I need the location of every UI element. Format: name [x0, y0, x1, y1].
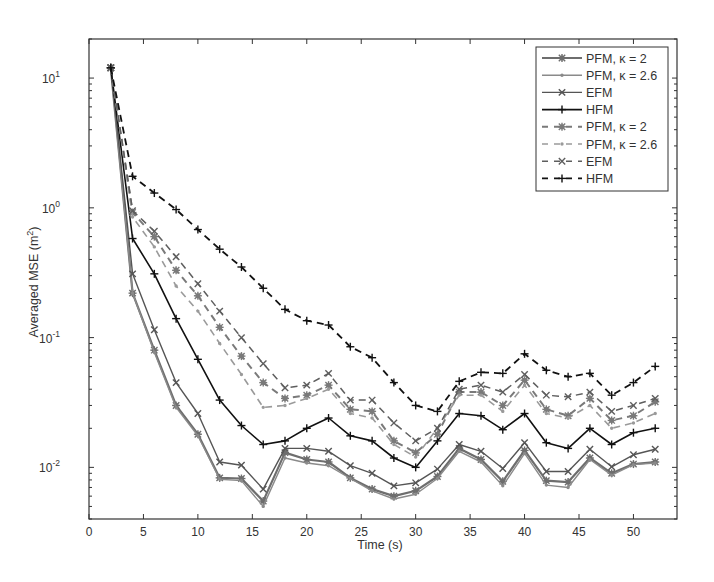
point-marker-icon — [458, 450, 460, 452]
point-marker-icon — [132, 292, 134, 294]
point-marker-icon — [545, 413, 547, 415]
x-tick-label: 35 — [463, 525, 477, 539]
point-marker-icon — [589, 404, 591, 406]
asterisk-marker-icon — [558, 54, 566, 62]
point-marker-icon — [328, 388, 330, 390]
point-marker-icon — [219, 478, 221, 480]
asterisk-marker-icon — [368, 407, 376, 415]
point-marker-icon — [175, 285, 177, 287]
y-axis-title: Averaged MSE (m2) — [25, 226, 41, 337]
asterisk-marker-icon — [259, 379, 267, 387]
point-marker-icon — [306, 397, 308, 399]
point-marker-icon — [262, 505, 264, 507]
x-tick-label: 40 — [518, 525, 532, 539]
legend-label: PFM, κ = 2.6 — [586, 138, 657, 152]
point-marker-icon — [654, 462, 656, 464]
point-marker-icon — [654, 413, 656, 415]
point-marker-icon — [611, 474, 613, 476]
point-marker-icon — [545, 484, 547, 486]
point-marker-icon — [502, 410, 504, 412]
point-marker-icon — [240, 373, 242, 375]
point-marker-icon — [284, 457, 286, 459]
legend-label: HFM — [586, 103, 613, 117]
point-marker-icon — [393, 444, 395, 446]
x-tick-label: 10 — [191, 525, 205, 539]
x-tick-label: 15 — [246, 525, 260, 539]
point-marker-icon — [524, 384, 526, 386]
point-marker-icon — [415, 493, 417, 495]
legend-label: EFM — [586, 86, 612, 100]
y-axis-title-tail: ) — [27, 226, 41, 230]
point-marker-icon — [561, 74, 563, 76]
point-marker-icon — [371, 490, 373, 492]
asterisk-marker-icon — [237, 352, 245, 360]
point-marker-icon — [632, 464, 634, 466]
asterisk-marker-icon — [172, 266, 180, 274]
x-tick-label: 20 — [300, 525, 314, 539]
asterisk-marker-icon — [608, 416, 616, 424]
point-marker-icon — [175, 406, 177, 408]
point-marker-icon — [567, 486, 569, 488]
point-marker-icon — [502, 485, 504, 487]
legend-label: HFM — [586, 172, 613, 186]
point-marker-icon — [567, 417, 569, 419]
legend-label: PFM, κ = 2 — [586, 120, 647, 134]
point-marker-icon — [153, 246, 155, 248]
x-tick-label: 5 — [140, 525, 147, 539]
point-marker-icon — [561, 143, 563, 145]
point-marker-icon — [480, 461, 482, 463]
point-marker-icon — [458, 394, 460, 396]
point-marker-icon — [632, 422, 634, 424]
asterisk-marker-icon — [216, 323, 224, 331]
point-marker-icon — [349, 478, 351, 480]
asterisk-marker-icon — [281, 394, 289, 402]
asterisk-marker-icon — [558, 123, 566, 131]
point-marker-icon — [393, 498, 395, 500]
point-marker-icon — [132, 216, 134, 218]
legend: PFM, κ = 2PFM, κ = 2.6EFMHFMPFM, κ = 2PF… — [536, 47, 668, 191]
point-marker-icon — [436, 478, 438, 480]
point-marker-icon — [611, 427, 613, 429]
point-marker-icon — [262, 406, 264, 408]
point-marker-icon — [240, 480, 242, 482]
x-tick-label: 45 — [572, 525, 586, 539]
point-marker-icon — [197, 310, 199, 312]
point-marker-icon — [415, 456, 417, 458]
point-marker-icon — [197, 435, 199, 437]
y-axis-title-base: Averaged MSE (m — [27, 236, 41, 338]
point-marker-icon — [306, 462, 308, 464]
legend-label: EFM — [586, 155, 612, 169]
legend-label: PFM, κ = 2.6 — [586, 69, 657, 83]
point-marker-icon — [589, 458, 591, 460]
point-marker-icon — [284, 404, 286, 406]
point-marker-icon — [349, 413, 351, 415]
asterisk-marker-icon — [629, 412, 637, 420]
x-axis-title: Time (s) — [357, 538, 402, 552]
point-marker-icon — [524, 452, 526, 454]
point-marker-icon — [153, 351, 155, 353]
asterisk-marker-icon — [194, 292, 202, 300]
point-marker-icon — [371, 417, 373, 419]
x-tick-label: 30 — [409, 525, 423, 539]
point-marker-icon — [480, 394, 482, 396]
x-tick-label: 0 — [86, 525, 93, 539]
x-tick-label: 25 — [355, 525, 369, 539]
mse-line-chart: 05101520253035404550 10110010-110-2 Time… — [0, 0, 714, 582]
legend-label: PFM, κ = 2 — [586, 52, 647, 66]
point-marker-icon — [219, 343, 221, 345]
point-marker-icon — [328, 465, 330, 467]
asterisk-marker-icon — [499, 401, 507, 409]
x-tick-label: 50 — [627, 525, 641, 539]
